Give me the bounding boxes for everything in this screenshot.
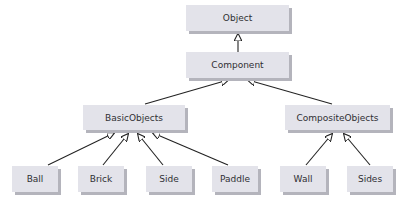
edge-sides-compositeobjects	[344, 134, 370, 165]
class-label: Paddle	[220, 174, 250, 184]
class-brick: Brick	[78, 166, 124, 192]
class-label: Ball	[27, 174, 44, 184]
class-ball: Ball	[12, 166, 58, 192]
class-sides: Sides	[347, 166, 393, 192]
class-side: Side	[146, 166, 192, 192]
class-label: CompositeObjects	[296, 113, 378, 123]
edge-brick-basicobjects	[103, 134, 128, 165]
class-label: Wall	[294, 174, 313, 184]
class-paddle: Paddle	[212, 166, 258, 192]
class-basicobjects: BasicObjects	[83, 105, 185, 130]
class-label: Sides	[358, 174, 382, 184]
edge-ball-basicobjects	[48, 133, 114, 165]
class-label: BasicObjects	[105, 113, 163, 123]
class-object: Object	[186, 5, 289, 31]
class-label: Component	[211, 60, 263, 70]
edge-basicobjects-component	[145, 80, 228, 104]
class-label: Object	[223, 13, 252, 23]
class-wall: Wall	[280, 166, 326, 192]
class-label: Brick	[90, 174, 113, 184]
edge-wall-compositeobjects	[306, 134, 332, 165]
edge-side-basicobjects	[138, 134, 163, 165]
class-component: Component	[186, 52, 289, 78]
class-compositeobjects: CompositeObjects	[285, 105, 390, 130]
edge-paddle-basicobjects	[153, 133, 228, 165]
edge-compositeobjects-component	[248, 80, 332, 104]
class-label: Side	[159, 174, 178, 184]
